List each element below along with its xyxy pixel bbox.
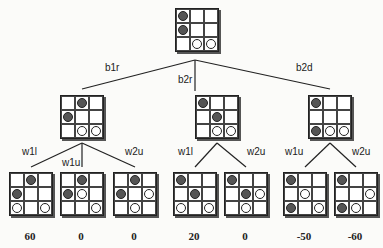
board-cell: [196, 96, 210, 110]
board-cell: [176, 37, 190, 51]
leaf-board: [60, 172, 104, 216]
board-cell: [323, 124, 337, 138]
white-stone-icon: [91, 126, 101, 136]
leaf-board: [173, 172, 217, 216]
edge-label: b1r: [105, 62, 119, 73]
board-cell: [89, 201, 103, 215]
board-cell: [239, 201, 253, 215]
board-cell: [335, 173, 349, 187]
board-cell: [142, 173, 156, 187]
leaf-score: -60: [333, 230, 377, 242]
board-cell: [298, 201, 312, 215]
white-stone-icon: [206, 39, 216, 49]
white-stone-icon: [130, 203, 140, 213]
white-stone-icon: [365, 189, 375, 199]
white-stone-icon: [204, 203, 214, 213]
edge-label: w1l: [178, 146, 193, 157]
board-cell: [188, 187, 202, 201]
black-stone-icon: [176, 175, 186, 185]
board-cell: [224, 110, 238, 124]
board-cell: [61, 124, 75, 138]
board-cell: [114, 173, 128, 187]
board-cell: [204, 9, 218, 23]
board-cell: [176, 9, 190, 23]
board-cell: [204, 37, 218, 51]
board-cell: [284, 201, 298, 215]
board-cell: [335, 187, 349, 201]
board-cell: [284, 173, 298, 187]
board-cell: [38, 201, 52, 215]
board-cell: [309, 124, 323, 138]
black-stone-icon: [178, 25, 188, 35]
leaf-board: [283, 172, 327, 216]
board-cell: [61, 187, 75, 201]
board-cell: [312, 173, 326, 187]
board-cell: [196, 110, 210, 124]
board-cell: [337, 110, 351, 124]
board-cell: [210, 110, 224, 124]
board-cell: [349, 173, 363, 187]
leaf-board: [113, 172, 157, 216]
board-cell: [10, 187, 24, 201]
white-stone-icon: [192, 39, 202, 49]
white-stone-icon: [314, 203, 324, 213]
black-stone-icon: [311, 98, 321, 108]
edge-label: w1u: [285, 146, 303, 157]
board-cell: [253, 201, 267, 215]
board-cell: [210, 124, 224, 138]
board-cell: [323, 110, 337, 124]
board-cell: [202, 201, 216, 215]
black-stone-icon: [212, 112, 222, 122]
board-cell: [224, 124, 238, 138]
board-cell: [128, 187, 142, 201]
white-stone-icon: [12, 203, 22, 213]
board-cell: [284, 187, 298, 201]
edge-label: w2u: [352, 146, 370, 157]
leaf-score: 0: [223, 230, 267, 242]
white-stone-icon: [77, 126, 87, 136]
leaf-score: -50: [282, 230, 326, 242]
white-stone-icon: [300, 189, 310, 199]
leaf-board: [9, 172, 53, 216]
root-board: [175, 8, 219, 52]
board-cell: [61, 201, 75, 215]
white-stone-icon: [40, 203, 50, 213]
board-cell: [190, 23, 204, 37]
board-cell: [38, 173, 52, 187]
board-cell: [224, 96, 238, 110]
board-cell: [75, 173, 89, 187]
board-cell: [10, 201, 24, 215]
board-cell: [298, 173, 312, 187]
board-cell: [61, 173, 75, 187]
board-cell: [239, 187, 253, 201]
board-cell: [312, 187, 326, 201]
edge-label: w1l: [22, 146, 37, 157]
board-cell: [114, 201, 128, 215]
board-cell: [24, 173, 38, 187]
board-cell: [89, 96, 103, 110]
board-cell: [75, 110, 89, 124]
board-cell: [337, 124, 351, 138]
white-stone-icon: [339, 126, 349, 136]
black-stone-icon: [337, 175, 347, 185]
white-stone-icon: [144, 189, 154, 199]
level1-board: [308, 95, 352, 139]
edge-label: w1u: [62, 157, 80, 168]
board-cell: [188, 201, 202, 215]
edge-label: b2d: [296, 62, 313, 73]
edge-label: b2r: [178, 74, 192, 85]
board-cell: [89, 187, 103, 201]
white-stone-icon: [91, 203, 101, 213]
board-cell: [363, 173, 377, 187]
white-stone-icon: [255, 189, 265, 199]
board-cell: [61, 96, 75, 110]
board-cell: [253, 187, 267, 201]
board-cell: [202, 173, 216, 187]
edge-label: w2u: [247, 146, 265, 157]
board-cell: [239, 173, 253, 187]
board-cell: [309, 96, 323, 110]
board-cell: [176, 23, 190, 37]
leaf-score: 60: [8, 230, 52, 242]
black-stone-icon: [311, 126, 321, 136]
board-cell: [323, 96, 337, 110]
